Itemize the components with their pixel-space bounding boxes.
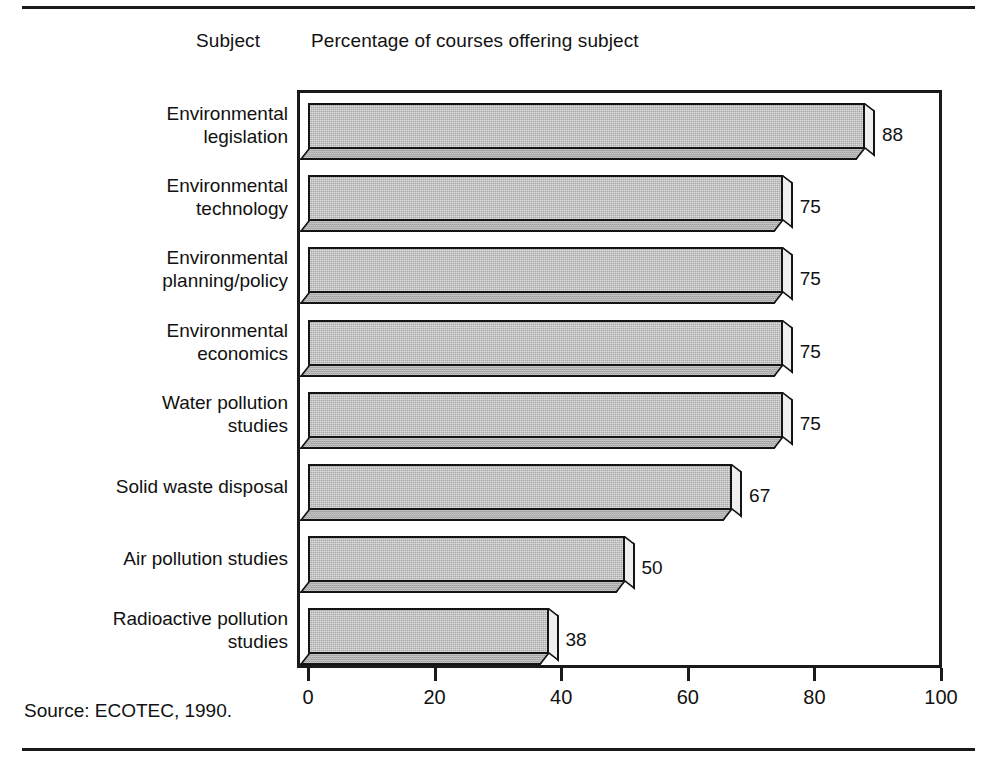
- x-axis-tick: [940, 668, 943, 681]
- bar-bottom-face: [299, 438, 782, 449]
- bar-side-face: [783, 247, 793, 301]
- bar: 75: [308, 392, 783, 438]
- bar: 67: [308, 464, 732, 510]
- bar-side-face: [783, 392, 793, 446]
- bar-value-label: 50: [642, 557, 663, 579]
- x-axis-tick-label: 60: [677, 686, 699, 709]
- source-note: Source: ECOTEC, 1990.: [24, 700, 232, 722]
- bar-side-face: [783, 175, 793, 229]
- bar-side-face: [783, 320, 793, 374]
- bar-value-label: 75: [800, 268, 821, 290]
- bar-face: [308, 247, 783, 293]
- category-label: Water pollution studies: [28, 391, 288, 437]
- x-axis-tick: [434, 668, 437, 681]
- bar-face: [308, 464, 732, 510]
- bar-bottom-face: [299, 293, 782, 304]
- bar-side-face: [549, 608, 559, 662]
- bar-chart: Environmental legislationEnvironmental t…: [0, 0, 988, 769]
- bar-face: [308, 175, 783, 221]
- bar: 38: [308, 608, 549, 654]
- bar-bottom-face: [299, 510, 732, 521]
- x-axis-tick: [687, 668, 690, 681]
- bar-face: [308, 103, 865, 149]
- bar-bottom-face: [299, 149, 865, 160]
- bar-value-label: 75: [800, 413, 821, 435]
- x-axis-tick: [813, 668, 816, 681]
- bar: 75: [308, 320, 783, 366]
- bar-side-face: [732, 464, 742, 518]
- x-axis-tick: [560, 668, 563, 681]
- bar-bottom-face: [299, 221, 782, 232]
- x-axis-tick-label: 80: [803, 686, 825, 709]
- bar-value-label: 38: [566, 629, 587, 651]
- x-axis-tick-label: 0: [302, 686, 313, 709]
- category-label: Environmental planning/policy: [28, 246, 288, 292]
- bar: 88: [308, 103, 865, 149]
- bar-value-label: 75: [800, 196, 821, 218]
- bar: 75: [308, 247, 783, 293]
- bar-bottom-face: [299, 654, 548, 665]
- bar-side-face: [625, 536, 635, 590]
- category-label: Air pollution studies: [28, 547, 288, 570]
- bar-face: [308, 608, 549, 654]
- bar-face: [308, 320, 783, 366]
- bar-face: [308, 536, 625, 582]
- bar-value-label: 67: [749, 485, 770, 507]
- bar-face: [308, 392, 783, 438]
- x-axis-tick: [307, 668, 310, 681]
- x-axis-tick-label: 20: [423, 686, 445, 709]
- x-axis-tick-label: 40: [550, 686, 572, 709]
- category-label: Solid waste disposal: [28, 475, 288, 498]
- x-axis-tick-label: 100: [924, 686, 957, 709]
- bar-value-label: 88: [882, 124, 903, 146]
- category-label: Environmental legislation: [28, 102, 288, 148]
- category-label: Environmental economics: [28, 319, 288, 365]
- category-label: Radioactive pollution studies: [28, 607, 288, 653]
- bar-bottom-face: [299, 366, 782, 377]
- bar-side-face: [865, 103, 875, 157]
- bar: 75: [308, 175, 783, 221]
- bar: 50: [308, 536, 625, 582]
- bar-bottom-face: [299, 582, 624, 593]
- bar-value-label: 75: [800, 341, 821, 363]
- category-label: Environmental technology: [28, 174, 288, 220]
